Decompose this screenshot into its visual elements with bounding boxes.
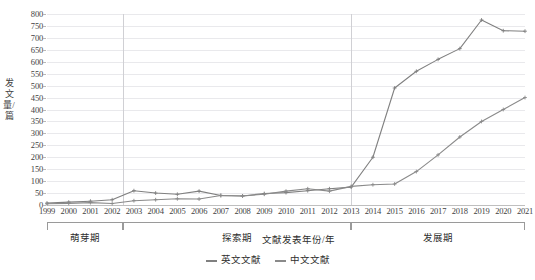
gridline [47, 86, 525, 87]
plot-area [47, 14, 525, 205]
y-tick-mark [43, 38, 46, 39]
phase-brace [47, 222, 123, 230]
phase-brace [123, 222, 351, 230]
legend-item-1[interactable]: 英文文献 [206, 256, 261, 266]
gridline [47, 121, 525, 122]
y-tick-label: 750 [31, 22, 43, 31]
phase-divider [123, 14, 124, 205]
gridline [47, 62, 525, 63]
x-tick-label: 2003 [126, 207, 142, 216]
gridline [47, 193, 525, 194]
x-tick-label: 2009 [256, 207, 272, 216]
legend-line-icon [206, 260, 217, 262]
gridline [47, 133, 525, 134]
legend-item-2[interactable]: 中文文献 [275, 256, 330, 266]
x-tick-label: 2020 [495, 207, 511, 216]
x-tick-label: 2008 [234, 207, 250, 216]
y-tick-label: 700 [31, 34, 43, 43]
x-tick-label: 2010 [278, 207, 294, 216]
y-tick-mark [43, 86, 46, 87]
x-tick-label: 2021 [517, 207, 533, 216]
y-tick-label: 400 [31, 105, 43, 114]
y-tick-label: 350 [31, 117, 43, 126]
x-tick-label: 2018 [452, 207, 468, 216]
y-tick-label: 200 [31, 153, 43, 162]
phase-label: 萌芽期 [70, 234, 100, 244]
x-tick-label: 2007 [213, 207, 229, 216]
x-tick-label: 2000 [61, 207, 77, 216]
chart-legend: 英文文献中文文献 [0, 256, 535, 266]
y-tick-mark [43, 157, 46, 158]
y-tick-label: 300 [31, 129, 43, 138]
y-axis-tick-labels: 0501001502002503003504004505005506006507… [0, 14, 43, 205]
x-axis-label: 文献发表年份/年 [262, 236, 335, 246]
x-tick-label: 2004 [148, 207, 164, 216]
y-tick-label: 550 [31, 69, 43, 78]
x-tick-label: 2012 [321, 207, 337, 216]
y-tick-label: 450 [31, 93, 43, 102]
gridline [47, 145, 525, 146]
y-tick-mark [43, 62, 46, 63]
y-tick-mark [43, 169, 46, 170]
gridline [47, 157, 525, 158]
y-tick-label: 600 [31, 58, 43, 67]
gridline [47, 98, 525, 99]
x-tick-label: 2019 [473, 207, 489, 216]
gridline [47, 74, 525, 75]
x-tick-label: 2016 [408, 207, 424, 216]
y-tick-label: 650 [31, 46, 43, 55]
chart-container: 发文量/篇 0501001502002503003504004505005506… [0, 0, 535, 280]
y-tick-label: 100 [31, 177, 43, 186]
x-axis-tick-labels: 1999200020012002200320042005200620072008… [47, 207, 525, 223]
phase-label: 探索期 [222, 234, 252, 244]
phase-brace [351, 222, 525, 230]
x-tick-label: 2005 [169, 207, 185, 216]
phase-label: 发展期 [423, 234, 453, 244]
y-tick-mark [43, 193, 46, 194]
gridline [47, 50, 525, 51]
y-tick-label: 500 [31, 81, 43, 90]
gridline [47, 110, 525, 111]
y-tick-label: 250 [31, 141, 43, 150]
phase-divider [351, 14, 352, 205]
y-tick-mark [43, 133, 46, 134]
x-tick-label: 2002 [104, 207, 120, 216]
gridline [47, 181, 525, 182]
gridline [47, 14, 525, 15]
y-tick-mark [43, 145, 46, 146]
y-tick-mark [43, 74, 46, 75]
x-tick-label: 2014 [365, 207, 381, 216]
legend-label: 中文文献 [290, 256, 330, 266]
x-tick-label: 2006 [191, 207, 207, 216]
y-tick-mark [43, 121, 46, 122]
y-tick-label: 50 [35, 189, 43, 198]
legend-line-icon [275, 260, 286, 262]
x-tick-label: 2013 [343, 207, 359, 216]
y-tick-label: 150 [31, 165, 43, 174]
x-tick-label: 2011 [300, 207, 316, 216]
legend-label: 英文文献 [221, 256, 261, 266]
gridline [47, 26, 525, 27]
y-tick-label: 800 [31, 10, 43, 19]
y-tick-mark [43, 26, 46, 27]
y-tick-mark [43, 50, 46, 51]
x-tick-label: 2017 [430, 207, 446, 216]
x-tick-label: 2015 [387, 207, 403, 216]
x-tick-label: 2001 [82, 207, 98, 216]
y-tick-mark [43, 181, 46, 182]
gridline [47, 38, 525, 39]
y-tick-mark [43, 110, 46, 111]
y-tick-mark [43, 98, 46, 99]
x-tick-label: 1999 [39, 207, 55, 216]
y-tick-mark [43, 14, 46, 15]
gridline [47, 169, 525, 170]
